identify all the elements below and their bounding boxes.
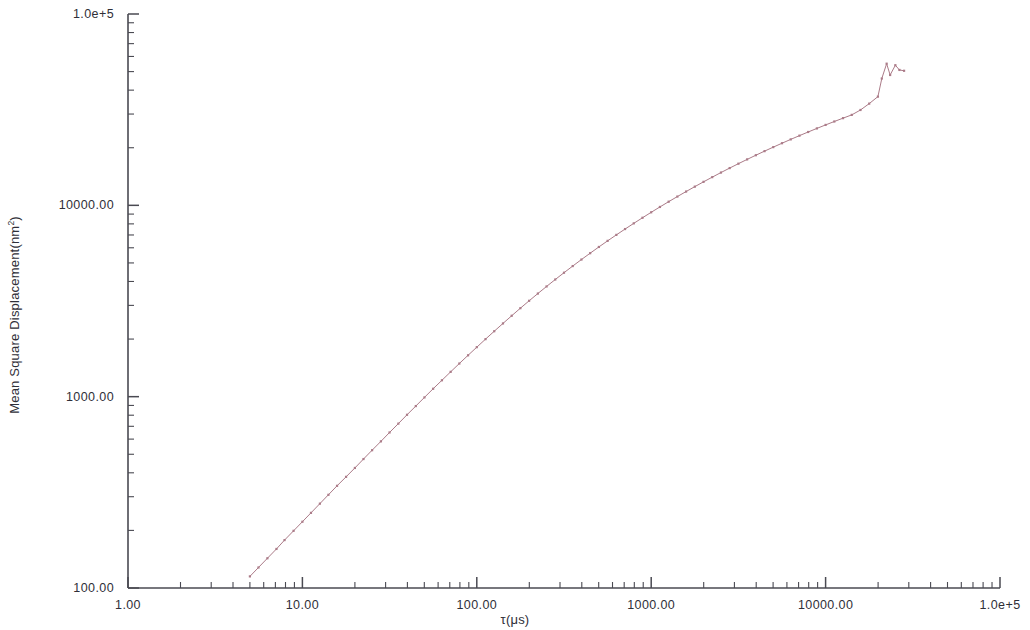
series-marker	[842, 117, 844, 119]
series-marker	[354, 467, 356, 469]
series-marker	[898, 69, 900, 71]
series-marker	[572, 265, 574, 267]
series-marker	[441, 379, 443, 381]
series-marker	[798, 135, 800, 137]
chart-canvas: Mean Square Displacement(nm2) τ(μs) 100.…	[0, 0, 1030, 630]
series-marker	[476, 346, 478, 348]
series-marker	[432, 388, 434, 390]
series-marker	[371, 449, 373, 451]
series-marker	[772, 146, 774, 148]
series-marker	[833, 120, 835, 122]
series-marker	[702, 181, 704, 183]
series-marker	[310, 512, 312, 514]
series-marker	[362, 458, 364, 460]
series-marker	[807, 131, 809, 133]
data-series-group	[249, 63, 905, 578]
series-marker	[519, 307, 521, 309]
series-marker	[484, 338, 486, 340]
series-marker	[685, 190, 687, 192]
series-marker	[301, 521, 303, 523]
series-marker	[380, 440, 382, 442]
series-marker	[580, 258, 582, 260]
series-marker	[868, 103, 870, 105]
series-marker	[598, 246, 600, 248]
series-marker	[659, 206, 661, 208]
series-marker	[327, 494, 329, 496]
series-marker	[345, 476, 347, 478]
series-marker	[694, 186, 696, 188]
series-marker	[763, 150, 765, 152]
series-marker	[502, 322, 504, 324]
series-marker	[589, 252, 591, 254]
series-line-0	[250, 64, 904, 577]
series-marker	[720, 171, 722, 173]
series-marker	[615, 234, 617, 236]
series-marker	[886, 63, 888, 65]
series-marker	[737, 163, 739, 165]
series-marker	[894, 64, 896, 66]
series-marker	[423, 396, 425, 398]
series-marker	[676, 195, 678, 197]
series-marker	[537, 292, 539, 294]
series-marker	[729, 167, 731, 169]
axis-ticks	[128, 14, 1000, 588]
series-marker	[790, 138, 792, 140]
series-marker	[336, 485, 338, 487]
series-marker	[641, 217, 643, 219]
series-marker	[528, 300, 530, 302]
series-marker	[851, 114, 853, 116]
series-marker	[889, 74, 891, 76]
series-marker	[606, 240, 608, 242]
axis-lines	[128, 14, 1000, 588]
series-marker	[545, 285, 547, 287]
series-marker	[283, 539, 285, 541]
plot-area	[0, 0, 1030, 630]
series-marker	[415, 405, 417, 407]
series-marker	[493, 330, 495, 332]
series-marker	[881, 77, 883, 79]
series-marker	[755, 154, 757, 156]
series-marker	[816, 127, 818, 129]
series-marker	[668, 201, 670, 203]
series-marker	[266, 557, 268, 559]
series-marker	[257, 566, 259, 568]
series-marker	[859, 109, 861, 111]
series-marker	[458, 362, 460, 364]
series-marker	[633, 222, 635, 224]
series-marker	[903, 70, 905, 72]
series-marker	[563, 272, 565, 274]
series-marker	[406, 414, 408, 416]
series-marker	[450, 371, 452, 373]
series-marker	[249, 575, 251, 577]
series-marker	[746, 158, 748, 160]
series-marker	[388, 431, 390, 433]
series-marker	[467, 354, 469, 356]
series-marker	[877, 96, 879, 98]
series-marker	[275, 548, 277, 550]
series-marker	[781, 142, 783, 144]
series-marker	[554, 278, 556, 280]
series-marker	[825, 124, 827, 126]
series-marker	[511, 315, 513, 317]
series-marker	[397, 423, 399, 425]
series-marker	[624, 228, 626, 230]
series-marker	[292, 530, 294, 532]
series-marker	[319, 503, 321, 505]
series-marker	[650, 211, 652, 213]
series-marker	[711, 176, 713, 178]
